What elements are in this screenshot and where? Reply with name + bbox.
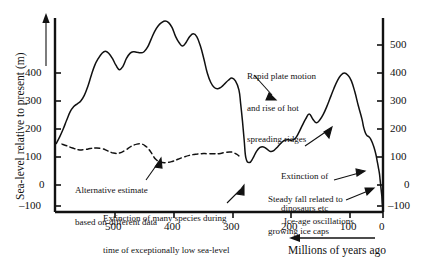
annotation-rapid-plate-motion-line1: Rapid plate motion	[247, 71, 316, 82]
y-right-tick-200: 200	[390, 122, 407, 134]
y-right-tick-300: 300	[390, 94, 407, 106]
y-left-tick-neg100: –100	[19, 199, 41, 211]
y-right-tick-500: 500	[390, 38, 407, 50]
y-left-tick-300: 300	[25, 94, 42, 106]
y-left-tick-100: 100	[25, 150, 42, 162]
annotation-rapid-plate-motion: Rapid plate motion and rise of hot sprea…	[247, 50, 316, 166]
annotation-extinction-many-species: Extinction of many species during time o…	[103, 192, 229, 263]
y-right-tick-0: 0	[404, 178, 410, 190]
x-tick-0: 0	[379, 220, 385, 232]
y-right-tick-neg100: –100	[388, 199, 410, 211]
y-left-tick-0: 0	[39, 178, 45, 190]
y-right-tick-400: 400	[390, 66, 407, 78]
annotation-ice-age-oscillations: Ice-age oscillations	[284, 195, 354, 248]
annotation-ice-age-oscillations-line1: Ice-age oscillations	[284, 216, 354, 227]
annotation-extinction-many-species-line1: Extinction of many species during	[103, 213, 229, 224]
y-right-tick-100: 100	[390, 150, 407, 162]
sea-level-chart-figure: Sea-level relative to present (m) 400 30…	[0, 0, 425, 263]
y-left-tick-400: 400	[25, 66, 42, 78]
annotation-extinction-many-species-line2: time of exceptionally low sea-level	[103, 245, 229, 256]
up-arrow-icon	[42, 13, 49, 66]
y-left-tick-200: 200	[25, 122, 42, 134]
annotation-rapid-plate-motion-line2: and rise of hot	[247, 103, 316, 114]
sea-level-curve-alternative	[62, 144, 239, 163]
annotation-rapid-plate-motion-line3: spreading ridges	[247, 134, 316, 145]
